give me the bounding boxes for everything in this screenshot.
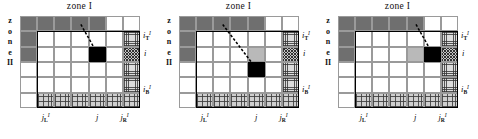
zone-two-band-cell [20,16,37,31]
target-cell [248,62,265,77]
target-cell [89,47,106,62]
x-label-right: jRI [274,112,294,123]
grid [179,16,299,108]
zone-two-char-2: n [162,37,176,48]
x-label-right: jRI [433,112,453,123]
y-label-bottom: iBI [461,84,469,95]
grid-cell [106,47,123,62]
grid-cell [179,77,196,92]
grid-cell [424,16,441,31]
panel-left: zone IzoneIIiTIiiBIjLIjjRI [0,0,159,139]
hatched-right-cell [441,31,458,46]
grid [20,16,140,108]
hatched-bottom-cell [54,93,71,108]
grid-cell [20,93,37,108]
grid-cell [20,62,37,77]
x-label-mid: j [87,112,107,122]
hatched-right-cell [282,62,299,77]
zone-two-char-3: e [3,48,17,59]
hatched-right-cell [282,31,299,46]
grid-cell [89,31,106,46]
grid-cell [106,62,123,77]
x-label-left: jLI [36,112,56,123]
grid-cell [338,62,355,77]
x-label-left: jLI [195,112,215,123]
grid-cell [89,62,106,77]
hatched-bottom-cell [106,93,123,108]
zone-two-label: zoneII [3,16,17,69]
zone-two-label: zoneII [162,16,176,69]
zone-two-band-cell [179,16,196,31]
hatched-right-cell [282,47,299,62]
grid-cell [20,77,37,92]
hatched-bottom-cell [282,93,299,108]
y-label-top: iTI [461,30,469,41]
zone-two-band-cell [338,16,355,31]
grid-cell [407,62,424,77]
grid-cell [71,77,88,92]
grid-cell [89,77,106,92]
zone-two-band-cell [213,16,230,31]
zone-two-char-0: z [321,16,335,27]
hatched-right-cell [441,62,458,77]
grid-cell [265,62,282,77]
grid-cell [230,62,247,77]
grid-cell [248,31,265,46]
hatched-right-cell [123,47,140,62]
zone-two-char-3: e [321,48,335,59]
zone-two-band-cell [20,31,37,46]
grid-cell [196,31,213,46]
zone-two-char-0: z [3,16,17,27]
zone-two-band-cell [338,31,355,46]
hatched-right-cell [282,77,299,92]
grid-cell [230,47,247,62]
target-cell [424,47,441,62]
y-label-top: iTI [302,30,310,41]
grid-cell [355,77,372,92]
zone-two-char-1: o [162,27,176,38]
zone-two-band-cell [179,47,196,62]
grid-cell [179,93,196,108]
zone-two-band-cell [71,16,88,31]
zone-two-char-2: n [321,37,335,48]
zone-two-char-4: II [321,58,335,69]
grid-cell [372,62,389,77]
hatched-bottom-cell [248,93,265,108]
grid-cell [71,62,88,77]
zone-two-band-cell [338,47,355,62]
grid-cell [355,62,372,77]
grid-cell [37,62,54,77]
grid-cell [196,47,213,62]
grid-cell [424,31,441,46]
y-label-bottom: iBI [143,84,151,95]
hatched-bottom-cell [213,93,230,108]
zone-two-char-2: n [3,37,17,48]
y-label-mid: i [144,48,146,58]
hatched-bottom-cell [196,93,213,108]
grid-cell [407,31,424,46]
grid-cell [106,16,123,31]
hatched-bottom-cell [123,93,140,108]
zone-two-band-cell [407,16,424,31]
zone-two-band-cell [372,16,389,31]
hatched-bottom-cell [89,93,106,108]
hatched-right-cell [123,31,140,46]
hatched-right-cell [441,77,458,92]
zone-two-band-cell [89,16,106,31]
grid-cell [389,47,406,62]
grid-cell [54,77,71,92]
grid-cell [265,47,282,62]
grid-cell [282,16,299,31]
hatched-bottom-cell [355,93,372,108]
grid-cell [230,31,247,46]
zone-two-char-3: e [162,48,176,59]
zone-two-band-cell [248,16,265,31]
zone-two-char-1: o [3,27,17,38]
grid-cell [424,77,441,92]
zone-two-label: zoneII [321,16,335,69]
grid-cell [355,47,372,62]
hatched-right-cell [123,77,140,92]
zone-two-band-cell [389,16,406,31]
grid-cell [106,77,123,92]
hatched-bottom-cell [37,93,54,108]
